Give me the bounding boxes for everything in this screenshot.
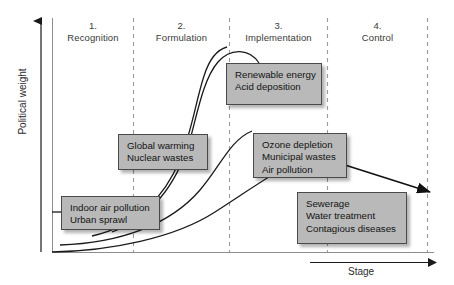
stage-number-2: 2.	[134, 20, 229, 32]
stage-name-2: Formulation	[134, 32, 229, 44]
issue-item-nuclear-wastes: Nuclear wastes	[127, 152, 200, 164]
issue-box-renewable-energy[interactable]: Renewable energy Acid deposition	[226, 63, 322, 105]
issue-item-municipal-wastes: Municipal wastes	[262, 151, 339, 163]
stage-heading-1: 1. Recognition	[53, 20, 133, 44]
x-axis-title: Stage	[348, 266, 374, 277]
y-axis-title: Political weight	[17, 52, 28, 152]
stage-number-4: 4.	[328, 20, 427, 32]
issue-item-ozone-depletion: Ozone depletion	[262, 139, 339, 151]
decline-arrow	[345, 165, 430, 192]
issue-box-ozone-depletion[interactable]: Ozone depletion Municipal wastes Air pol…	[253, 133, 347, 178]
issue-item-global-warming: Global warming	[127, 140, 200, 152]
issue-item-indoor-air-pollution: Indoor air pollution	[70, 202, 152, 214]
issue-item-urban-sprawl: Urban sprawl	[70, 214, 152, 226]
issue-item-air-pollution: Air pollution	[262, 164, 339, 176]
issue-item-acid-deposition: Acid deposition	[235, 81, 314, 93]
stage-name-3: Implementation	[230, 32, 327, 44]
issue-item-water-treatment: Water treatment	[306, 210, 399, 222]
stage-number-3: 3.	[230, 20, 327, 32]
issue-box-indoor-air-pollution[interactable]: Indoor air pollution Urban sprawl	[61, 196, 160, 230]
stage-name-4: Control	[328, 32, 427, 44]
issue-item-sewerage: Sewerage	[306, 198, 399, 210]
issue-item-contagious-diseases: Contagious diseases	[306, 223, 399, 235]
stage-heading-3: 3. Implementation	[230, 20, 327, 44]
issue-box-sewerage[interactable]: Sewerage Water treatment Contagious dise…	[297, 192, 407, 244]
stage-heading-4: 4. Control	[328, 20, 427, 44]
stage-number-1: 1.	[53, 20, 133, 32]
issue-item-renewable-energy: Renewable energy	[235, 69, 314, 81]
stage-name-1: Recognition	[53, 32, 133, 44]
stage-heading-2: 2. Formulation	[134, 20, 229, 44]
issue-attention-cycle-diagram: Political weight Stage 1. Recognition 2.…	[0, 0, 454, 285]
issue-box-global-warming[interactable]: Global warming Nuclear wastes	[118, 134, 208, 170]
